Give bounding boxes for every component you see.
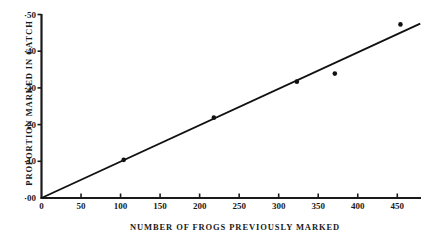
data-point-1 [121, 158, 126, 163]
data-point-2 [212, 115, 217, 120]
x-tick-label-0: 0 [39, 201, 44, 211]
fit-line [42, 24, 421, 198]
x-tick-label-250: 250 [232, 201, 246, 211]
y-axis-title: PROPORTION MARKED IN CATCH [24, 18, 34, 188]
data-point-5 [398, 22, 403, 27]
data-point-3 [295, 79, 300, 84]
x-tick-label-350: 350 [311, 201, 325, 211]
x-axis-title: NUMBER OF FROGS PREVIOUSLY MARKED [0, 222, 428, 232]
plot-canvas [0, 0, 428, 235]
scatter-plot-figure: 050100150200250300350400450 ·00·10·20·30… [0, 0, 428, 235]
data-point-4 [333, 71, 338, 76]
x-tick-label-400: 400 [351, 201, 365, 211]
x-tick-label-200: 200 [193, 201, 207, 211]
x-tick-label-100: 100 [114, 201, 128, 211]
x-tick-label-450: 450 [391, 201, 405, 211]
regression-line [42, 24, 421, 198]
y-tick-label-0: ·00 [14, 193, 36, 203]
x-tick-label-50: 50 [77, 201, 86, 211]
x-tick-label-300: 300 [272, 201, 286, 211]
x-tick-label-150: 150 [153, 201, 167, 211]
